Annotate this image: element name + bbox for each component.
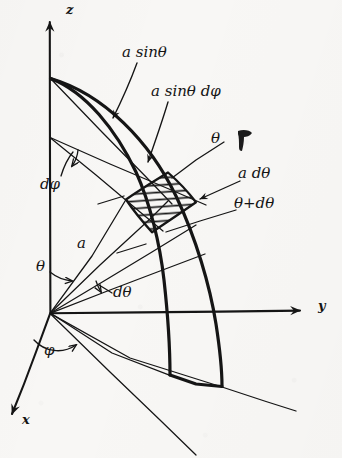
leader-theta-upper: [172, 142, 224, 178]
axis-label-z: z: [66, 3, 73, 16]
label-theta-origin: θ: [36, 259, 45, 274]
label-dtheta: dθ: [113, 285, 132, 300]
y-axis: [50, 311, 300, 314]
label-a-dtheta: a dθ: [238, 166, 270, 181]
label-a-sin-theta-dphi: a sinθ dφ: [151, 84, 221, 99]
z-axis: [50, 22, 51, 313]
generator-ray-extension: [222, 387, 296, 411]
surface-element-patch: [126, 173, 196, 233]
label-theta-upper: θ: [211, 131, 220, 146]
label-theta-plus-dtheta: θ+dθ: [234, 196, 274, 211]
label-radius-a: a: [77, 236, 86, 251]
ink-smudge: [238, 130, 252, 151]
diagram-canvas: [0, 0, 342, 458]
figure-spherical-surface-element: z y x a sinθ a sinθ dφ θ a dθ θ+dθ dφ a …: [0, 0, 342, 458]
lune-generator-ray-left: [51, 313, 170, 375]
axis-label-x: x: [22, 413, 30, 426]
label-phi: φ: [44, 343, 55, 358]
axis-label-y: y: [318, 299, 326, 312]
theta-angle-arc-origin: [50, 272, 72, 281]
azimuth-reference-ray: [51, 314, 196, 455]
x-axis: [12, 313, 50, 414]
lune-generator-ray-right: [51, 314, 222, 387]
leader-a-sin-theta-dphi: [148, 102, 168, 162]
label-a-sin-theta: a sinθ: [122, 45, 167, 60]
label-dphi: dφ: [40, 177, 60, 192]
leader-a-sin-theta: [113, 63, 137, 118]
tick-mark-upper-radial: [98, 196, 124, 204]
